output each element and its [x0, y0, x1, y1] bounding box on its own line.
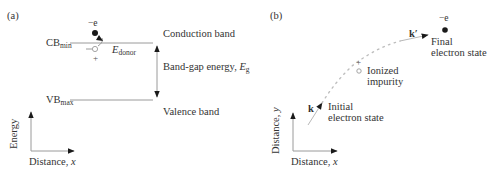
x-var-a: x [71, 156, 76, 167]
final-line2: electron state [431, 47, 487, 58]
energy-axis-label: Energy [9, 119, 20, 149]
vb-max-label: VBmax [46, 95, 74, 107]
vb-text: VB [46, 94, 61, 105]
electron-charge-text: −e [88, 18, 98, 28]
cb-sub-text: min [60, 41, 72, 50]
vb-sub-text: max [61, 98, 74, 107]
cb-min-label: CBmin [46, 38, 72, 50]
valence-band-label: Valence band [163, 107, 219, 118]
conduction-band-label: Conduction band [163, 29, 235, 40]
cb-text: CB [46, 37, 60, 48]
e-donor-sub: donor [118, 48, 136, 57]
final-electron-state-label: Finalelectron state [431, 36, 487, 58]
donor-plus-sign: + [93, 54, 98, 63]
k-prime-label: k′ [409, 29, 418, 40]
distance-y-axis-label: Distance, y [271, 107, 282, 154]
initial-electron-state-label: Initialelectron state [328, 101, 384, 123]
impurity-line2: impurity [367, 76, 403, 87]
y-var: y [270, 107, 281, 112]
electron-charge-text-b: −e [439, 13, 449, 23]
panel-b-graphics [293, 27, 448, 151]
electron-charge-label-b: −e [439, 14, 449, 24]
initial-line1: Initial [328, 101, 384, 112]
final-line1: Final [431, 36, 487, 47]
panel-a-label: (a) [7, 11, 19, 22]
diagram-canvas [0, 0, 491, 174]
distance-x-label-b: Distance, x [291, 157, 338, 168]
ionized-impurity-label: Ionizedimpurity [367, 65, 403, 87]
band-gap-sub: g [246, 65, 250, 74]
impurity-plus-sign: + [356, 58, 361, 67]
ionized-impurity-circle-icon [357, 69, 361, 73]
distance-text-a: Distance, [29, 156, 71, 167]
distance-text-b: Distance, [291, 156, 333, 167]
band-gap-label: Band-gap energy, Eg [163, 62, 250, 74]
electron-dot-icon [92, 30, 98, 36]
impurity-line1: Ionized [367, 65, 403, 76]
final-electron-dot-icon [442, 27, 448, 33]
x-var-b: x [333, 156, 338, 167]
excitation-arrowhead-icon [96, 35, 103, 41]
k-label: k [308, 104, 314, 115]
donor-ion-circle-icon [92, 46, 97, 51]
electron-charge-label-a: −e [88, 19, 98, 29]
distance-text-y: Distance, [270, 112, 281, 154]
distance-x-label-a: Distance, x [29, 157, 76, 168]
initial-line2: electron state [328, 112, 384, 123]
band-gap-text: Band-gap energy, [163, 61, 239, 72]
e-donor-label: Edonor [112, 45, 136, 57]
panel-b-label: (b) [270, 11, 282, 22]
